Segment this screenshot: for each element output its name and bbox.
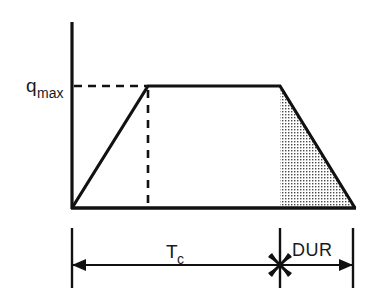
figure-container: q max xyxy=(0,0,379,302)
flow-rate-diagram: q max xyxy=(0,0,379,302)
dur-label: DUR xyxy=(292,240,333,260)
q-max-symbol: q xyxy=(26,75,37,96)
tc-subscript: c xyxy=(177,251,184,267)
q-max-subscript: max xyxy=(37,85,63,101)
